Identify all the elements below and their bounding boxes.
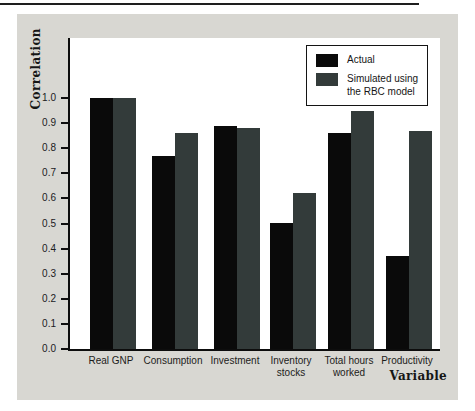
top-rule <box>0 3 419 5</box>
category-label: Consumption <box>141 355 205 367</box>
y-tick-mark <box>61 298 70 300</box>
y-tick-label: 1.0 <box>24 92 56 103</box>
legend-item: Simulated usingthe RBC model <box>316 73 418 98</box>
y-tick-label: 0.3 <box>24 268 56 279</box>
y-tick-mark <box>61 147 70 149</box>
y-tick-mark <box>61 172 70 174</box>
y-tick-label: 0.0 <box>24 343 56 354</box>
category-label: Total hours worked <box>317 355 381 379</box>
legend-label: Simulated usingthe RBC model <box>347 73 418 98</box>
plot-area: 0.00.10.20.30.40.50.60.70.80.91.0 Actual… <box>68 38 440 351</box>
legend-swatch-actual <box>316 54 338 67</box>
y-tick-label: 0.6 <box>24 193 56 204</box>
x-category-labels: Real GNPConsumptionInvestmentInventory s… <box>68 355 440 381</box>
legend-swatch-simulated <box>316 73 338 86</box>
legend-item: Actual <box>316 54 418 67</box>
y-tick-label: 0.2 <box>24 293 56 304</box>
category-label: Real GNP <box>79 355 143 367</box>
bar-simulated <box>351 111 374 349</box>
figure-panel: Correlation 0.00.10.20.30.40.50.60.70.80… <box>17 14 458 400</box>
bar-simulated <box>237 128 260 349</box>
bar-actual <box>152 156 175 349</box>
y-tick-mark <box>61 248 70 250</box>
bar-actual <box>386 256 409 349</box>
y-tick-label: 0.4 <box>24 243 56 254</box>
bar-simulated <box>175 133 198 349</box>
bar-actual <box>328 133 351 349</box>
y-tick-mark <box>61 273 70 275</box>
y-tick-mark <box>61 122 70 124</box>
bar-actual <box>270 223 293 349</box>
y-tick-label: 0.7 <box>24 168 56 179</box>
x-axis-title: Variable <box>389 369 447 383</box>
legend-label: Actual <box>347 54 375 67</box>
y-tick-label: 0.5 <box>24 218 56 229</box>
y-tick-mark <box>61 223 70 225</box>
y-tick-label: 0.1 <box>24 318 56 329</box>
bar-actual <box>90 98 113 349</box>
category-label: Inventory stocks <box>259 355 323 379</box>
category-label: Investment <box>203 355 267 367</box>
y-tick-label: 0.9 <box>24 117 56 128</box>
y-tick-label: 0.8 <box>24 142 56 153</box>
y-tick-mark <box>61 97 70 99</box>
y-tick-mark <box>61 197 70 199</box>
figure-page: { "chart_data": { "type": "bar", "title"… <box>0 0 475 411</box>
category-label: Productivity <box>375 355 439 367</box>
y-tick-mark <box>61 323 70 325</box>
y-tick-mark <box>61 348 70 350</box>
bar-simulated <box>113 98 136 349</box>
bar-actual <box>214 126 237 349</box>
bar-simulated <box>409 131 432 349</box>
bar-simulated <box>293 193 316 349</box>
legend: ActualSimulated usingthe RBC model <box>306 45 428 106</box>
